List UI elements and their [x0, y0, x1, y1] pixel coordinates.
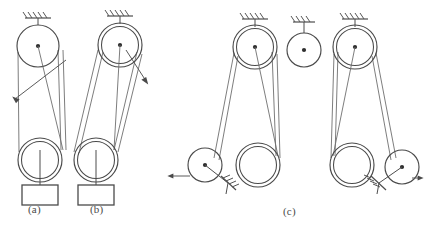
panel-b-belt — [74, 50, 142, 153]
panel-c-ground-support-center — [291, 16, 315, 33]
mechanism-drawing-canvas — [0, 0, 424, 228]
panel-c-left-output-arrow — [167, 173, 190, 178]
panel-c-right-crank-pivot — [364, 175, 386, 194]
pulley-mechanism-figure: (a) (b) (c) — [0, 0, 424, 228]
panel-c-group — [167, 13, 423, 194]
panel-c-right-belt — [331, 52, 396, 160]
panel-a-ground-support — [23, 12, 51, 25]
caption-c: (c) — [283, 205, 296, 217]
panel-b-direction-arrow — [126, 50, 148, 84]
panel-c-left-lower-pulley — [236, 143, 280, 187]
panel-c-left-belt — [214, 52, 280, 160]
panel-b-tension-line — [114, 45, 120, 150]
panel-c-left-tension-line — [255, 47, 278, 156]
caption-b: (b) — [90, 203, 103, 215]
panel-a-group — [12, 12, 66, 205]
panel-b-ground-support — [105, 10, 133, 24]
caption-a: (a) — [28, 203, 41, 215]
panel-c-left-crank-pivot — [221, 175, 239, 194]
panel-c-right-crank — [379, 150, 419, 184]
panel-c-right-lower-pulley — [330, 143, 374, 187]
panel-b-group — [74, 10, 148, 205]
panel-c-center-idler-pulley — [287, 33, 321, 67]
